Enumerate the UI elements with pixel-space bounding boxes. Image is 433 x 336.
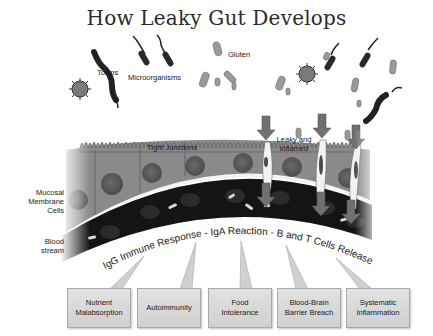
tight-junctions-label: Tight Junctions	[147, 143, 197, 152]
toxin-virus-icon	[69, 78, 91, 100]
outcome-blood-brain-barrier-breach: Blood-BrainBarrier Breach	[277, 288, 341, 328]
immune-response-text: IgG Immune Response - IgA Reaction - B a…	[101, 225, 375, 271]
microorganism-icon	[133, 35, 378, 55]
spiral-bacteria-icon	[94, 52, 118, 108]
mucosal-cells-label: Mucosal Membrane Cells	[10, 188, 64, 215]
microorganisms-label: Microorganisms	[128, 73, 181, 82]
blood-stream-label: Blood stream	[10, 237, 64, 255]
diagram-illustration: IgG Immune Response - IgA Reaction - B a…	[0, 0, 433, 336]
gluten-label: Gluten	[228, 50, 250, 59]
outcome-nutrient-malabsorption: NutrientMalabsorption	[67, 288, 131, 328]
outcome-food-intolerance: FoodIntolerance	[208, 288, 272, 328]
microorganism-body	[137, 50, 371, 72]
leaky-inflamed-label: Leaky and inflamed	[274, 135, 314, 153]
leaky-gut-diagram: How Leaky Gut Develops	[0, 0, 433, 336]
outcome-autoimmunity: Autoimmunity	[137, 288, 201, 328]
outcome-systematic-inflammation: SystematicInflammation	[346, 288, 410, 328]
toxins-label: Toxins	[97, 68, 118, 77]
toxin-virus-icon	[296, 63, 318, 85]
spiral-bacteria-icon	[366, 88, 402, 122]
